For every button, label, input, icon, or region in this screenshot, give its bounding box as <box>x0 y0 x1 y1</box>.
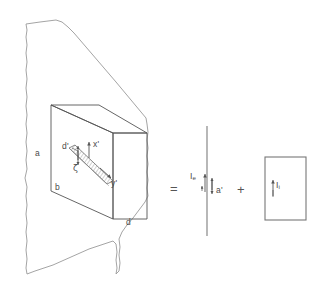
label-axis-zeta: ζ <box>73 164 78 173</box>
label-box-a: a <box>35 149 40 158</box>
figure-drawing-canvas <box>0 0 317 290</box>
label-dimension-a-prime: a' <box>216 186 223 195</box>
label-current-Ie: Ie <box>190 172 196 181</box>
figure-root: a b d d' x' y' ζ = + Ie a' Ii <box>0 0 317 290</box>
operator-plus: + <box>237 183 245 196</box>
interior-current-rectangle <box>265 157 306 220</box>
label-box-b: b <box>55 183 60 192</box>
irregular-plane-outline <box>25 20 148 274</box>
rectangular-box <box>51 105 147 219</box>
label-current-Ii-sub: i <box>279 183 281 190</box>
label-slab-d-prime: d' <box>62 142 69 151</box>
label-box-d: d <box>126 218 131 227</box>
label-axis-x-prime: x' <box>93 140 99 149</box>
label-current-Ie-sub: e <box>193 174 197 181</box>
label-axis-y-prime: y' <box>111 179 117 188</box>
label-current-Ii: Ii <box>276 181 280 190</box>
operator-equals: = <box>170 182 178 195</box>
